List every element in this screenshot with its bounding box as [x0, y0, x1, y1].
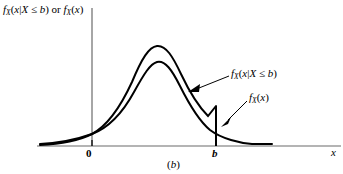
- y-axis-label-conjunction: or: [49, 3, 64, 15]
- x-axis-label: x: [331, 147, 336, 158]
- y-axis-label-rel1: ≤: [28, 3, 40, 15]
- y-axis-label-close2: ): [80, 3, 84, 15]
- arrowhead-conditional: [188, 84, 200, 92]
- leader-line-conditional: [199, 76, 229, 88]
- arrowhead-marginal: [221, 117, 231, 127]
- marginal-density-label: fX(x): [249, 92, 269, 105]
- y-axis-label: fX(x|X ≤ b) or fX(x): [3, 4, 83, 17]
- figure-container: fX(x|X ≤ b) or fX(x) fX(x|X ≤ b) fX(x) 0…: [0, 0, 343, 174]
- conditional-density-curve: [40, 46, 216, 145]
- marginal-label-close: ): [265, 91, 269, 103]
- conditional-label-rel: ≤: [256, 67, 268, 79]
- conditional-density-label: fX(x|X ≤ b): [231, 68, 277, 81]
- x-tick-label-b: b: [212, 148, 218, 159]
- caption-close-paren: ): [176, 158, 180, 170]
- density-plot: [0, 0, 343, 174]
- figure-caption: (b): [167, 158, 180, 170]
- conditional-label-close: ): [273, 67, 277, 79]
- x-tick-label-zero: 0: [86, 148, 92, 159]
